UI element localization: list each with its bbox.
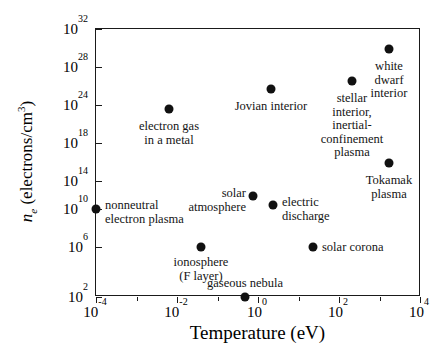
y-tick-major [96, 29, 102, 30]
y-tick-label: 1014 [36, 171, 88, 190]
y-tick-major [96, 297, 102, 298]
data-point-label: electric discharge [282, 196, 330, 223]
x-tick-minor [380, 297, 381, 301]
y-tick-major [96, 247, 102, 248]
x-tick-major [177, 297, 178, 303]
x-tick-major [339, 297, 340, 303]
x-tick-minor [299, 297, 300, 301]
y-tick-major [96, 181, 102, 182]
y-tick-label: 1010 [36, 199, 88, 218]
data-point-label: electron gas in a metal [139, 120, 199, 147]
data-point [269, 201, 278, 210]
data-point [241, 293, 250, 302]
data-point-label: Jovian interior [235, 100, 308, 114]
data-point [385, 45, 394, 54]
x-tick-minor [137, 297, 138, 301]
x-tick-major [258, 297, 259, 303]
y-tick-label: 1032 [36, 19, 88, 38]
data-point-label: stellar interior, inertial-confinement p… [319, 92, 386, 160]
data-point [249, 192, 258, 201]
x-tick-label: 102 [328, 302, 348, 321]
x-tick-minor [218, 297, 219, 301]
data-point [267, 85, 276, 94]
y-axis-exponent: 3 [15, 107, 27, 113]
data-point-label: nonneutral electron plasma [105, 199, 184, 226]
data-point-label: white dwarf interior [371, 60, 408, 101]
x-tick-label: 100 [247, 302, 267, 321]
y-tick-major [96, 143, 102, 144]
data-point-label: solar atmosphere [188, 187, 246, 214]
x-tick-label: 104 [409, 302, 429, 321]
y-tick-label: 106 [36, 237, 88, 256]
data-point [92, 205, 101, 214]
data-point [348, 77, 357, 86]
data-point-label: gaseous nebula [207, 277, 283, 291]
y-axis-symbol: n [17, 214, 36, 223]
y-tick-major [96, 105, 102, 106]
y-tick-major [96, 67, 102, 68]
y-tick-label: 1028 [36, 57, 88, 76]
y-tick-label: 1024 [36, 95, 88, 114]
data-point [165, 105, 174, 114]
data-point-label: solar corona [322, 241, 383, 255]
y-tick-label: 1018 [36, 133, 88, 152]
data-point [309, 243, 318, 252]
x-axis-title: Temperature (eV) [95, 322, 420, 344]
x-tick-label: 10-2 [164, 302, 187, 321]
y-axis-units-close: ) [17, 101, 36, 107]
data-point-label: Tokamak plasma [366, 174, 412, 201]
y-tick-label: 102 [36, 287, 88, 306]
data-point [197, 243, 206, 252]
scatter-plot-figure: ne (electrons/cm3) Temperature (eV) 10-4… [0, 0, 440, 355]
data-point [385, 159, 394, 168]
y-axis-units-open: (electrons/cm [17, 112, 36, 209]
plot-frame: nonneutral electron plasmaelectron gas i… [95, 28, 420, 296]
x-tick-major [420, 297, 421, 303]
